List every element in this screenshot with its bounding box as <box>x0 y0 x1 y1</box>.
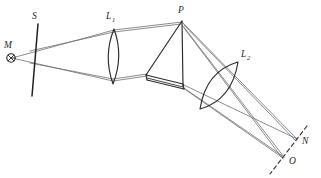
source-symbol <box>7 54 15 62</box>
label-prism-p: P <box>177 5 184 15</box>
lens-1-body <box>108 29 119 84</box>
ray-collimated-upper-2 <box>114 24 181 32</box>
ray-slit-cross-upper <box>30 32 114 51</box>
ray-source-to-lens1-upper <box>12 30 114 58</box>
ray-slit-cross-lower <box>30 63 113 79</box>
optical-diagram-figure: M S L 1 P L 2 N O <box>0 0 321 178</box>
ray-base-to-n <box>184 85 297 139</box>
label-slit-s: S <box>32 11 37 21</box>
prism <box>146 21 184 89</box>
label-lens1-letter: L <box>105 11 111 21</box>
lens-1 <box>108 29 119 84</box>
prism-edge-apex-to-left <box>146 21 182 75</box>
ray-bundle-prism-to-images <box>183 23 297 159</box>
label-lens2-letter: L <box>240 49 246 59</box>
label-image-o: O <box>289 156 296 166</box>
ray-collimated-upper <box>114 22 182 30</box>
prism-edge-apex-to-right <box>182 21 183 86</box>
ray-apex-to-n <box>183 23 297 139</box>
label-lens2-subscript: 2 <box>247 54 251 61</box>
label-lens1-subscript: 1 <box>112 16 115 23</box>
slit-line <box>32 24 38 96</box>
prism-base-bottom-edge <box>147 80 184 89</box>
ray-base-to-o <box>184 88 284 157</box>
label-lens1: L 1 <box>105 11 115 23</box>
ray-apex-to-o-2 <box>184 28 283 159</box>
ray-apex-to-n-2 <box>184 25 296 141</box>
label-image-n: N <box>301 136 309 146</box>
label-source-m: M <box>3 40 13 50</box>
label-lens2: L 2 <box>240 49 251 61</box>
ray-bundle-source-to-lens1 <box>12 30 114 81</box>
diagram-canvas: M S L 1 P L 2 N O <box>0 0 321 178</box>
ray-base-to-o-2 <box>186 90 283 158</box>
